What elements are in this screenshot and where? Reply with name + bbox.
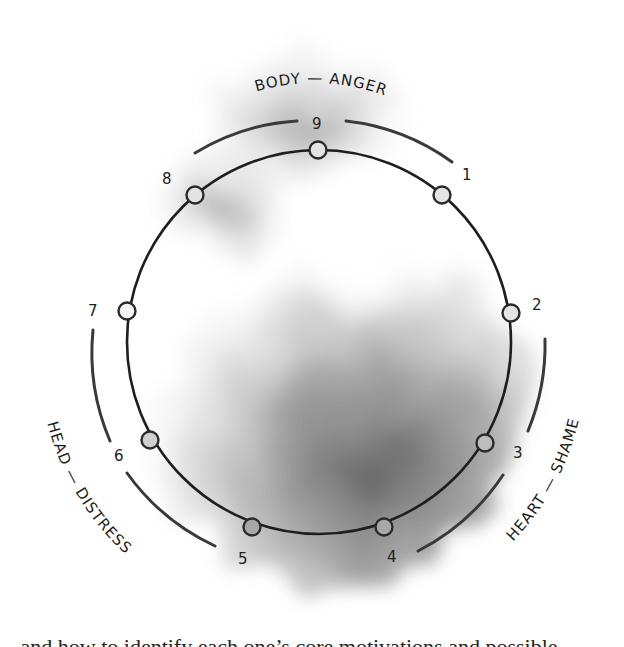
node-label-8: 8 <box>162 170 172 188</box>
triad-label-head-text: HEAD — DISTRESS <box>43 419 135 558</box>
node-3[interactable] <box>477 435 494 452</box>
clipped-caption: ...and how to identify each one’s core m… <box>0 634 624 647</box>
node-7[interactable] <box>119 303 136 320</box>
triad-label-head: HEAD — DISTRESS <box>43 419 135 558</box>
enneagram-diagram: 9 1 2 3 4 5 6 7 8 BODY — ANGER HEART — S… <box>0 0 624 647</box>
clipped-caption-text: ...and how to identify each one’s core m… <box>0 634 624 647</box>
node-9[interactable] <box>310 142 327 159</box>
node-label-6: 6 <box>114 447 124 465</box>
arc-heart-upper <box>528 339 545 431</box>
node-2[interactable] <box>503 305 520 322</box>
node-label-4: 4 <box>387 548 397 566</box>
node-4[interactable] <box>376 519 393 536</box>
node-1[interactable] <box>434 187 451 204</box>
node-5[interactable] <box>244 519 261 536</box>
node-label-1: 1 <box>462 166 472 184</box>
node-label-3: 3 <box>513 444 523 462</box>
node-label-9: 9 <box>312 115 322 133</box>
arc-head-upper <box>92 330 110 441</box>
node-8[interactable] <box>187 187 204 204</box>
watercolor-wash <box>130 50 530 585</box>
node-6[interactable] <box>142 432 159 449</box>
node-label-2: 2 <box>532 296 542 314</box>
node-label-7: 7 <box>88 302 98 320</box>
node-label-5: 5 <box>238 550 248 568</box>
